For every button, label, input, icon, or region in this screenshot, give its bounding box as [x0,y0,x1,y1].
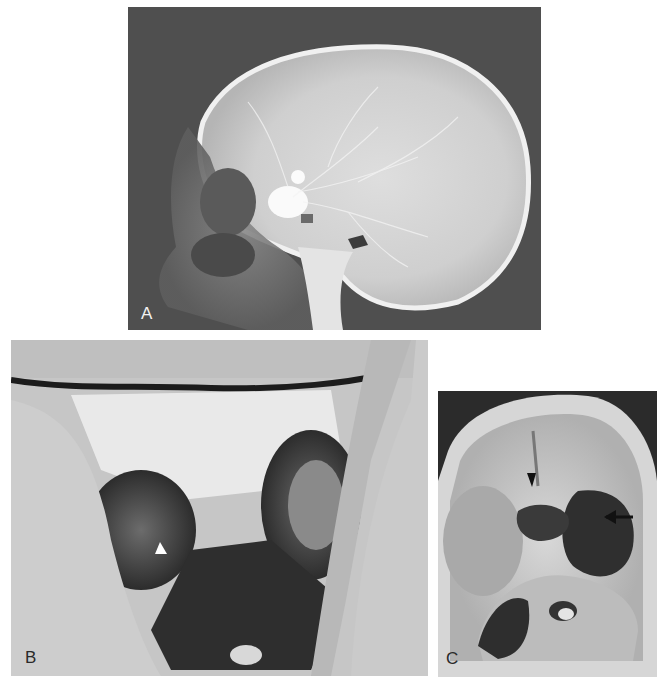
specimen-photo-image [438,391,657,677]
panel-label-a: A [141,305,152,322]
figure-panel-c: C [438,391,657,677]
panel-label-c: C [446,650,458,667]
figure-panel-b: B [11,340,428,676]
operative-photo-image [11,340,428,676]
panel-label-b: B [25,649,36,666]
figure-panel-a: A [128,7,541,330]
skull-xray-image [128,7,541,330]
